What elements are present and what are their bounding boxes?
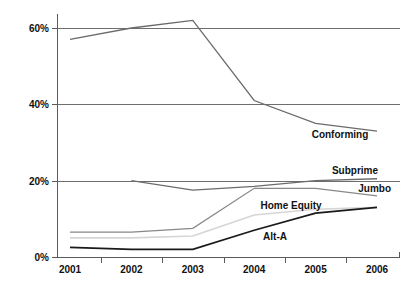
y-axis-label-40: 40% <box>29 99 49 110</box>
x-axis-label-2006: 2006 <box>366 264 389 275</box>
y-axis-label-60: 60% <box>29 23 49 34</box>
series-label-subprime: Subprime <box>332 165 379 176</box>
y-axis-labels-group: 0%20%40%60% <box>29 23 49 263</box>
chart-plot-area: 0%20%40%60% 200120022003200420052006 Con… <box>0 0 414 283</box>
y-axis-label-20: 20% <box>29 176 49 187</box>
series-label-conforming: Conforming <box>312 129 369 140</box>
x-axis-label-2004: 2004 <box>243 264 266 275</box>
series-labels-group: ConformingSubprimeJumboHome EquityAlt-A <box>260 129 391 242</box>
x-axis-label-2002: 2002 <box>120 264 143 275</box>
series-label-jumbo: Jumbo <box>358 183 391 194</box>
series-label-alt-a: Alt-A <box>263 231 287 242</box>
data-line-alt-a <box>70 207 377 249</box>
x-axis-label-2003: 2003 <box>182 264 205 275</box>
y-axis-label-0: 0% <box>35 252 50 263</box>
x-axis-label-2005: 2005 <box>304 264 327 275</box>
data-line-conforming <box>70 20 377 131</box>
x-axis-label-2001: 2001 <box>59 264 82 275</box>
line-chart: 0%20%40%60% 200120022003200420052006 Con… <box>0 0 414 283</box>
x-axis-labels-group: 200120022003200420052006 <box>59 264 389 275</box>
series-label-home-equity: Home Equity <box>260 200 322 211</box>
x-tickmarks-group <box>101 258 347 263</box>
